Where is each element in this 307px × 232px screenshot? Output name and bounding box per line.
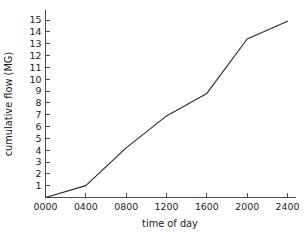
x-tick-label: 0400 xyxy=(74,201,98,212)
y-tick-label: 6 xyxy=(36,121,42,132)
x-tick-label: 2400 xyxy=(276,201,300,212)
x-axis-ticks: 0000040008001200160020002400 xyxy=(34,193,300,212)
y-tick-label: 7 xyxy=(36,109,42,120)
y-tick-label: 8 xyxy=(36,97,42,108)
y-tick-label: 2 xyxy=(36,168,42,179)
axes-group xyxy=(46,10,297,198)
y-tick-label: 3 xyxy=(36,156,42,167)
x-tick-label: 0800 xyxy=(114,201,138,212)
chart-figure: 123456789101112131415 000004000800120016… xyxy=(0,0,307,232)
y-axis-ticks: 123456789101112131415 xyxy=(30,14,50,191)
y-tick-label: 13 xyxy=(30,38,42,49)
data-series-line xyxy=(46,21,288,197)
y-tick-label: 10 xyxy=(30,74,42,85)
x-tick-label: 0000 xyxy=(34,201,58,212)
y-tick-label: 11 xyxy=(30,62,42,73)
x-tick-label: 1600 xyxy=(195,201,219,212)
y-tick-label: 5 xyxy=(36,133,42,144)
x-axis-title: time of day xyxy=(142,218,198,229)
cumulative-flow-line-chart: 123456789101112131415 000004000800120016… xyxy=(0,0,307,232)
x-tick-label: 1200 xyxy=(155,201,179,212)
y-axis-title: cumulative flow (MG) xyxy=(3,52,14,157)
x-tick-label: 2000 xyxy=(235,201,259,212)
y-tick-label: 9 xyxy=(36,85,42,96)
y-tick-label: 1 xyxy=(36,180,42,191)
y-tick-label: 4 xyxy=(36,145,42,156)
y-tick-label: 14 xyxy=(30,26,42,37)
y-tick-label: 12 xyxy=(30,50,42,61)
y-tick-label: 15 xyxy=(30,14,42,25)
